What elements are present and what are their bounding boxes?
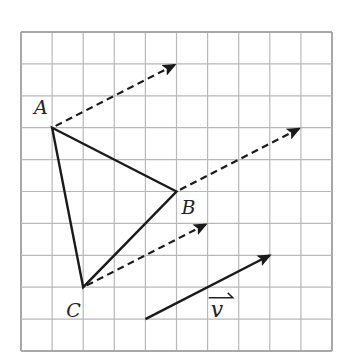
vertex-label-b: B (181, 196, 196, 218)
vertex-label-c: C (66, 299, 81, 321)
vector-over-arrow-icon (209, 293, 233, 298)
vertex-label-a: A (32, 96, 48, 118)
translation-diagram: v ABC (0, 0, 352, 352)
diagram-canvas: v ABC (0, 0, 352, 352)
vector-v-label: v (211, 297, 224, 322)
translation-arrows (56, 65, 299, 286)
